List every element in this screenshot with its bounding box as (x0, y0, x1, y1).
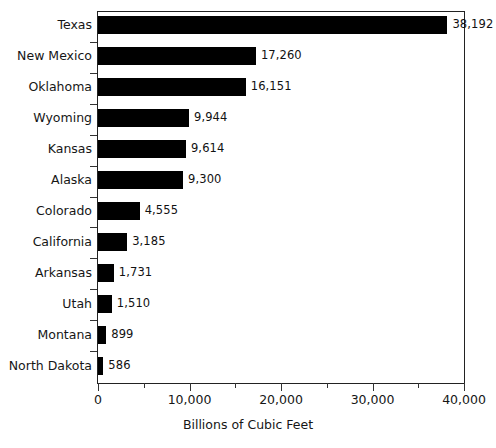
bars-layer: 38,19217,26016,1519,9449,6149,3004,5553,… (98, 11, 464, 382)
y-axis-tick (90, 104, 97, 105)
category-label-utah: Utah (0, 295, 92, 313)
x-axis-tick-label: 10,000 (168, 394, 212, 407)
bar-value-label: 4,555 (145, 205, 178, 217)
x-axis-tick-label: 30,000 (351, 394, 395, 407)
bar-value-label: 3,185 (132, 236, 165, 248)
category-label-texas: Texas (0, 16, 92, 34)
bar-row: 4,555 (98, 202, 464, 220)
bar-chart: TexasNew MexicoOklahomaWyomingKansasAlas… (0, 0, 496, 448)
bar-value-label: 38,192 (452, 20, 493, 32)
bar-value-label: 9,614 (191, 143, 224, 155)
x-axis-tick-label: 20,000 (259, 394, 303, 407)
bar-row: 9,944 (98, 109, 464, 127)
y-axis-tick (90, 197, 97, 198)
bar-row: 38,192 (98, 16, 464, 34)
x-axis-tick-minor (144, 383, 145, 388)
bar-texas (98, 16, 447, 34)
x-axis-tick-major (464, 383, 465, 391)
bar-alaska (98, 171, 183, 189)
y-axis-tick (90, 289, 97, 290)
x-axis-title: Billions of Cubic Feet (0, 419, 496, 432)
bar-oklahoma (98, 78, 246, 96)
y-axis-tick (90, 320, 97, 321)
bar-arkansas (98, 264, 114, 282)
category-label-wyoming: Wyoming (0, 109, 92, 127)
y-axis-tick (90, 258, 97, 259)
bar-value-label: 9,944 (194, 112, 227, 124)
category-label-kansas: Kansas (0, 140, 92, 158)
bar-value-label: 9,300 (188, 174, 221, 186)
bar-kansas (98, 140, 186, 158)
bar-value-label: 17,260 (261, 51, 302, 63)
y-axis-tick (90, 227, 97, 228)
bar-california (98, 233, 127, 251)
x-axis-tick-minor (327, 383, 328, 388)
x-axis-tick-major (98, 383, 99, 391)
y-axis-tick (90, 73, 97, 74)
x-axis-tick-major (190, 383, 191, 391)
bar-row: 3,185 (98, 233, 464, 251)
category-label-california: California (0, 233, 92, 251)
bar-north-dakota (98, 357, 103, 375)
x-axis-tick-major (373, 383, 374, 391)
bar-value-label: 16,151 (251, 82, 292, 94)
y-axis-tick (90, 166, 97, 167)
bar-value-label: 1,731 (119, 267, 152, 279)
bar-row: 1,510 (98, 295, 464, 313)
category-label-oklahoma: Oklahoma (0, 78, 92, 96)
bar-value-label: 899 (111, 329, 133, 341)
category-axis-labels: TexasNew MexicoOklahomaWyomingKansasAlas… (0, 11, 92, 382)
y-axis-tick (90, 135, 97, 136)
bar-row: 16,151 (98, 78, 464, 96)
bar-row: 17,260 (98, 47, 464, 65)
x-axis-tick-minor (235, 383, 236, 388)
bar-row: 9,614 (98, 140, 464, 158)
category-label-montana: Montana (0, 326, 92, 344)
bar-row: 899 (98, 326, 464, 344)
x-axis-tick-minor (418, 383, 419, 388)
x-axis-tick-major (281, 383, 282, 391)
bar-utah (98, 295, 112, 313)
category-label-new-mexico: New Mexico (0, 47, 92, 65)
bar-colorado (98, 202, 140, 220)
category-label-alaska: Alaska (0, 171, 92, 189)
x-axis-tick-label: 40,000 (442, 394, 486, 407)
bar-row: 9,300 (98, 171, 464, 189)
bar-value-label: 1,510 (117, 298, 150, 310)
y-axis-tick (90, 351, 97, 352)
bar-wyoming (98, 109, 189, 127)
bar-row: 586 (98, 357, 464, 375)
category-label-arkansas: Arkansas (0, 264, 92, 282)
y-axis-tick (90, 42, 97, 43)
category-label-colorado: Colorado (0, 202, 92, 220)
bar-row: 1,731 (98, 264, 464, 282)
x-axis-tick-label: 0 (94, 394, 102, 407)
bar-new-mexico (98, 47, 256, 65)
bar-value-label: 586 (108, 360, 130, 372)
bar-montana (98, 326, 106, 344)
category-label-north-dakota: North Dakota (0, 357, 92, 375)
